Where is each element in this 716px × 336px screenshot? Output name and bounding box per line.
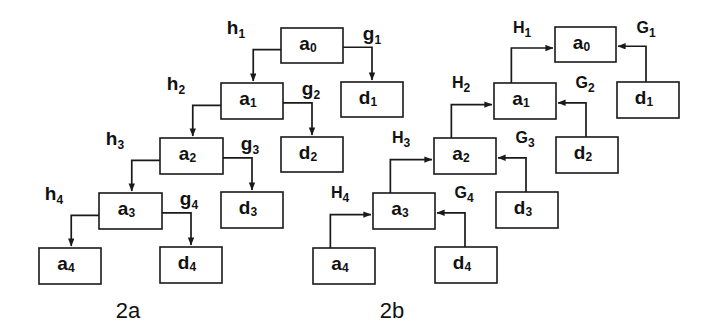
panel-caption-2a: 2a [116,298,141,323]
caption-layer: 2a2b [116,298,404,323]
node-2b-a1: a1 [494,83,556,119]
edge-label-g4: g4 [180,188,199,212]
connector-G1 [618,46,646,82]
edge-label-h2: h2 [167,73,186,97]
panel-caption-2b: 2b [380,298,404,323]
node-2a-a4: a4 [39,248,101,284]
connector-g1 [343,47,372,80]
node-2a-d1: d1 [341,82,403,117]
connector-H2 [451,105,492,138]
node-2b-d3: d3 [496,192,558,228]
node-2a-a3: a3 [99,193,162,229]
connector-h4 [71,215,99,246]
connector-G4 [437,213,465,247]
connector-g3 [223,158,252,190]
node-2a-a2: a2 [160,138,223,174]
edge-label-H2: H2 [452,74,471,95]
node-2b-d2: d2 [556,137,618,173]
edge-label-G3: G3 [515,129,534,150]
connector-H3 [390,160,432,193]
connector-H4 [330,215,371,248]
connector-g4 [162,213,191,245]
edge-label-H3: H3 [392,129,411,150]
node-2b-d4: d4 [435,247,497,283]
edge-label-h3: h3 [106,128,125,152]
node-2a-d4: d4 [160,247,222,283]
node-2b-a4: a4 [313,248,375,284]
edge-label-h1: h1 [227,17,246,41]
edge-label-H1: H1 [513,19,532,40]
node-layer: a0d1a1d2a2d3a3d4a4a0d1a1d2a2d3a3d4a4 [39,27,679,284]
figure-container: a0d1a1d2a2d3a3d4a4a0d1a1d2a2d3a3d4a4 h1g… [0,0,716,336]
node-2a-d2: d2 [281,137,343,172]
node-2b-a2: a2 [434,138,496,174]
edge-label-h4: h4 [45,183,64,207]
diagram-svg: a0d1a1d2a2d3a3d4a4a0d1a1d2a2d3a3d4a4 h1g… [0,0,716,336]
node-2b-d1: d1 [617,82,679,118]
node-2a-d3: d3 [221,192,283,228]
connector-H1 [511,48,553,83]
edge-label-H4: H4 [331,184,350,205]
connector-G3 [498,158,526,192]
connector-g2 [283,103,312,135]
connector-h2 [193,105,221,136]
node-2b-a3: a3 [373,193,435,229]
edge-label-g1: g1 [363,23,382,47]
edge-label-g3: g3 [241,133,260,157]
node-2b-a0: a0 [555,27,616,62]
edge-label-G4: G4 [454,184,473,205]
node-2a-a0: a0 [281,28,343,63]
connector-h1 [253,50,281,81]
edge-label-g2: g2 [302,78,321,102]
node-2a-a1: a1 [221,83,283,119]
edge-label-G2: G2 [575,74,594,95]
edge-label-G1: G1 [636,19,655,40]
connector-h3 [132,160,160,191]
connector-G2 [558,103,586,137]
